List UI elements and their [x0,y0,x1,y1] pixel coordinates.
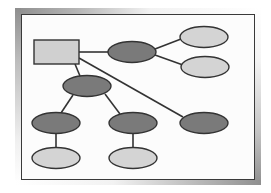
node-n1b [181,57,229,78]
node-n2a1 [32,148,80,169]
node-root [34,40,79,64]
node-n2b1 [109,148,157,169]
edge-root-n2 [75,64,80,76]
node-n1a [180,27,228,48]
node-n2a [32,113,80,134]
edge-n1-n1a [155,39,181,49]
node-n3 [180,113,228,134]
node-n2b [109,113,157,134]
node-n2 [63,76,111,97]
node-n1 [108,42,156,63]
edge-n2-n2b [105,94,120,114]
tree-diagram [0,0,271,193]
edge-n1-n1b [155,55,183,65]
node-layer [32,27,229,169]
edge-n2-n2a [61,95,73,113]
